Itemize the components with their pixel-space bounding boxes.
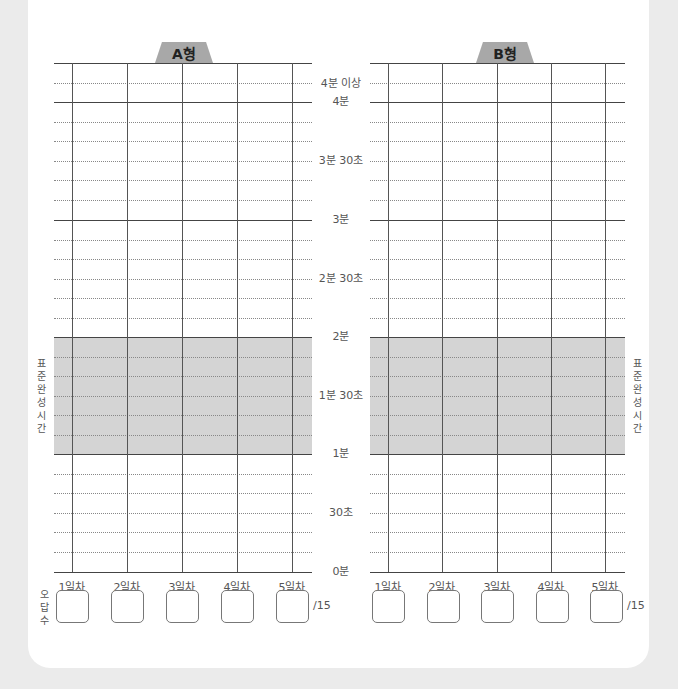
day-column-line bbox=[72, 63, 73, 572]
char: 시 bbox=[34, 409, 48, 422]
wrong-count-input-a-day3[interactable] bbox=[166, 590, 199, 623]
grid-line bbox=[54, 454, 312, 455]
day-column-line bbox=[292, 63, 293, 572]
char: 성 bbox=[34, 396, 48, 409]
grid-line bbox=[54, 180, 312, 181]
grid-line bbox=[54, 259, 312, 260]
chart-a-title: A형 bbox=[172, 43, 196, 63]
day-column-line bbox=[127, 63, 128, 572]
denominator-b: /15 bbox=[627, 599, 645, 612]
char: 완 bbox=[630, 383, 644, 396]
denominator-a: /15 bbox=[313, 599, 331, 612]
grid-line bbox=[54, 83, 312, 84]
wrong-count-label: 오 답 수 bbox=[37, 588, 51, 627]
grid-line bbox=[370, 572, 625, 573]
day-column-line bbox=[551, 63, 552, 572]
grid-line bbox=[54, 532, 312, 533]
char: 완 bbox=[34, 383, 48, 396]
grid-line bbox=[54, 220, 312, 221]
grid-line bbox=[54, 298, 312, 299]
chart-a-grid[interactable] bbox=[54, 63, 312, 572]
grid-line bbox=[54, 474, 312, 475]
y-label: 3분 bbox=[312, 214, 370, 226]
chart-b-grid[interactable] bbox=[370, 63, 625, 572]
char: 표 bbox=[34, 357, 48, 370]
char: 표 bbox=[630, 357, 644, 370]
y-label: 3분 30초 bbox=[312, 155, 370, 167]
chart-a-tab: A형 bbox=[155, 42, 213, 63]
char: 성 bbox=[630, 396, 644, 409]
wrong-count-input-a-day4[interactable] bbox=[221, 590, 254, 623]
day-column-line bbox=[237, 63, 238, 572]
grid-line bbox=[54, 572, 312, 573]
grid-line bbox=[54, 122, 312, 123]
grid-line bbox=[54, 318, 312, 319]
grid-line bbox=[54, 102, 312, 103]
y-label: 30초 bbox=[312, 507, 370, 519]
grid-line bbox=[54, 240, 312, 241]
day-column-line bbox=[182, 63, 183, 572]
grid-line bbox=[54, 513, 312, 514]
grid-line bbox=[54, 63, 312, 64]
y-label: 1분 bbox=[312, 448, 370, 460]
char: 준 bbox=[34, 370, 48, 383]
y-label: 4분 이상 bbox=[312, 78, 370, 90]
day-column-line bbox=[605, 63, 606, 572]
wrong-count-input-a-day1[interactable] bbox=[56, 590, 89, 623]
grid-line bbox=[54, 435, 312, 436]
wrong-count-input-b-day1[interactable] bbox=[372, 590, 405, 623]
wrong-count-input-b-day5[interactable] bbox=[590, 590, 623, 623]
day-column-line bbox=[442, 63, 443, 572]
char: 간 bbox=[630, 422, 644, 435]
char: 오 bbox=[37, 588, 51, 601]
y-label: 4분 bbox=[312, 96, 370, 108]
char: 수 bbox=[37, 614, 51, 627]
chart-b-title: B형 bbox=[493, 43, 517, 63]
grid-line bbox=[54, 279, 312, 280]
wrong-count-input-b-day3[interactable] bbox=[481, 590, 514, 623]
wrong-count-input-b-day4[interactable] bbox=[536, 590, 569, 623]
day-column-line bbox=[497, 63, 498, 572]
day-column-line bbox=[388, 63, 389, 572]
grid-line bbox=[54, 552, 312, 553]
standard-time-label-left: 표 준 완 성 시 간 bbox=[34, 357, 48, 435]
y-label: 2분 30초 bbox=[312, 273, 370, 285]
standard-time-label-right: 표 준 완 성 시 간 bbox=[630, 357, 644, 435]
grid-line bbox=[54, 493, 312, 494]
grid-line bbox=[54, 415, 312, 416]
grid-line bbox=[54, 200, 312, 201]
y-label: 1분 30초 bbox=[312, 390, 370, 402]
grid-line bbox=[54, 141, 312, 142]
grid-line bbox=[54, 376, 312, 377]
wrong-count-input-b-day2[interactable] bbox=[427, 590, 460, 623]
wrong-count-input-a-day2[interactable] bbox=[111, 590, 144, 623]
grid-line bbox=[54, 161, 312, 162]
grid-line bbox=[54, 357, 312, 358]
y-label: 2분 bbox=[312, 331, 370, 343]
chart-b-tab: B형 bbox=[476, 42, 534, 63]
char: 답 bbox=[37, 601, 51, 614]
char: 시 bbox=[630, 409, 644, 422]
wrong-count-input-a-day5[interactable] bbox=[276, 590, 309, 623]
grid-line bbox=[54, 337, 312, 338]
char: 간 bbox=[34, 422, 48, 435]
grid-line bbox=[54, 396, 312, 397]
char: 준 bbox=[630, 370, 644, 383]
y-label: 0분 bbox=[312, 566, 370, 578]
